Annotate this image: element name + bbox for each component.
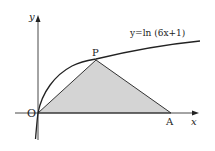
y-axis-arrow-icon [36, 15, 41, 22]
triangle-opa [38, 60, 171, 113]
origin-label: O [27, 107, 36, 120]
x-axis-label: x [191, 116, 197, 127]
x-axis-arrow-icon [192, 111, 199, 116]
curve-equation-label: y=ln (6x+1) [129, 28, 185, 38]
y-axis-label: y [28, 11, 35, 22]
point-a-label: A [165, 116, 174, 127]
diagram-canvas: O P A x y y=ln (6x+1) [0, 0, 215, 151]
point-p-label: P [92, 47, 99, 58]
